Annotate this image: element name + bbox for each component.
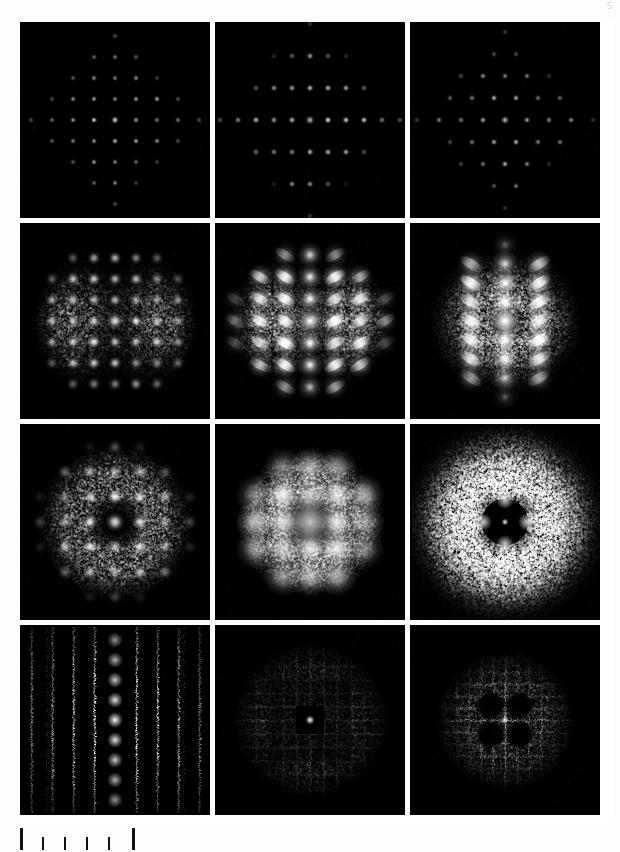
diffraction-image-r1c3	[410, 22, 600, 218]
figure-root: 5	[0, 0, 620, 852]
scale-bar-tick-6	[132, 828, 135, 850]
diffraction-image-r4c2	[215, 625, 405, 815]
diffraction-panel-r2c3	[410, 223, 600, 419]
diffraction-panel-grid	[20, 22, 613, 822]
diffraction-panel-r3c1	[20, 424, 210, 620]
scale-bar-tick-3	[64, 837, 66, 850]
diffraction-panel-r3c3	[410, 424, 600, 620]
diffraction-image-r3c1	[20, 424, 210, 620]
diffraction-panel-r2c1	[20, 223, 210, 419]
diffraction-image-r1c1	[20, 22, 210, 218]
diffraction-image-r1c2	[215, 22, 405, 218]
diffraction-panel-r4c1	[20, 625, 210, 815]
scale-bar-tick-1	[20, 828, 23, 850]
diffraction-image-r2c3	[410, 223, 600, 419]
diffraction-panel-r1c1	[20, 22, 210, 218]
diffraction-panel-r4c3	[410, 625, 600, 815]
diffraction-panel-r2c2	[215, 223, 405, 419]
diffraction-panel-r1c2	[215, 22, 405, 218]
diffraction-panel-r1c3	[410, 22, 600, 218]
diffraction-image-r4c3	[410, 625, 600, 815]
diffraction-image-r2c2	[215, 223, 405, 419]
page-number: 5	[607, 1, 612, 11]
scale-bar-tick-2	[42, 837, 44, 850]
diffraction-panel-r4c2	[215, 625, 405, 815]
diffraction-image-r3c3	[410, 424, 600, 620]
scale-bar	[20, 826, 140, 850]
diffraction-image-r2c1	[20, 223, 210, 419]
scale-bar-tick-5	[108, 837, 110, 850]
diffraction-image-r3c2	[215, 424, 405, 620]
scale-bar-tick-4	[86, 837, 88, 850]
diffraction-panel-r3c2	[215, 424, 405, 620]
diffraction-image-r4c1	[20, 625, 210, 815]
